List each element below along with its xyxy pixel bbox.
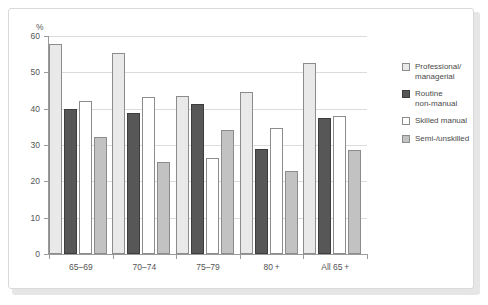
y-axis-tick-label: 0 <box>35 250 40 259</box>
bar <box>303 63 316 254</box>
x-axis-tick-label: All 65 + <box>321 262 349 272</box>
x-axis-tick <box>49 254 50 259</box>
legend-label: Skilled manual <box>415 116 467 126</box>
chart-page: % 0102030405060 65–6970–7475–7980 +All 6… <box>0 0 488 305</box>
bar <box>127 113 140 254</box>
x-axis-tick <box>367 254 368 259</box>
legend-swatch-icon <box>402 63 410 71</box>
legend-label: Routine non-manual <box>415 89 457 108</box>
bar-group <box>240 36 304 254</box>
bar <box>94 137 107 254</box>
legend-swatch-icon <box>402 135 410 143</box>
x-axis-tick <box>176 254 177 259</box>
x-axis-tick-label: 65–69 <box>69 262 93 272</box>
x-axis-tick <box>240 254 241 259</box>
legend-swatch-icon <box>402 90 410 98</box>
x-axis-tick <box>303 254 304 259</box>
y-axis-tick-label: 50 <box>31 68 40 77</box>
plot-area: 0102030405060 65–6970–7475–7980 +All 65 … <box>48 36 367 255</box>
y-axis-unit-label: % <box>36 22 44 32</box>
bar <box>221 130 234 254</box>
bar <box>348 150 361 254</box>
legend-label: Semi-/unskilled <box>415 134 469 144</box>
bar <box>142 97 155 254</box>
y-axis-tick-label: 60 <box>31 32 40 41</box>
bar <box>333 116 346 254</box>
bar <box>191 104 204 254</box>
bar <box>240 92 253 254</box>
bar-group <box>303 36 367 254</box>
bar <box>176 96 189 254</box>
bar <box>157 162 170 254</box>
bar <box>255 149 268 254</box>
bar <box>285 171 298 254</box>
legend-label: Professional/ managerial <box>415 62 461 81</box>
x-axis-tick-label: 70–74 <box>133 262 157 272</box>
legend-item[interactable]: Professional/ managerial <box>402 62 484 81</box>
x-axis-tick-label: 75–79 <box>196 262 220 272</box>
chart-legend: Professional/ managerialRoutine non-manu… <box>402 62 484 151</box>
bar <box>270 128 283 254</box>
bar <box>112 53 125 254</box>
legend-swatch-icon <box>402 117 410 125</box>
bar-groups <box>49 36 367 254</box>
bar-group <box>176 36 240 254</box>
bar <box>64 109 77 254</box>
bar <box>318 118 331 254</box>
bar <box>79 101 92 254</box>
legend-item[interactable]: Semi-/unskilled <box>402 134 484 144</box>
y-axis-tick-label: 10 <box>31 213 40 222</box>
y-axis-tick-label: 40 <box>31 104 40 113</box>
y-axis-tick-label: 20 <box>31 177 40 186</box>
legend-item[interactable]: Routine non-manual <box>402 89 484 108</box>
bar <box>49 44 62 254</box>
x-axis-tick <box>113 254 114 259</box>
bar <box>206 158 219 254</box>
bar-group <box>49 36 113 254</box>
bar-group <box>113 36 177 254</box>
y-axis-tick-label: 30 <box>31 141 40 150</box>
x-axis-tick-label: 80 + <box>264 262 280 272</box>
legend-item[interactable]: Skilled manual <box>402 116 484 126</box>
